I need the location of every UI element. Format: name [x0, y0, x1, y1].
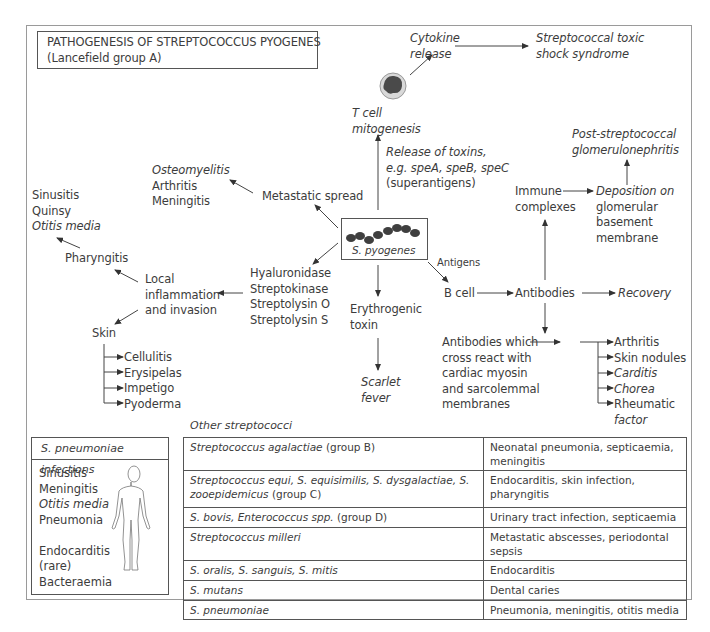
- table-row: S. mutans Dental caries: [184, 581, 687, 601]
- immune-complexes-label: Immunecomplexes: [515, 184, 576, 215]
- table-row: Streptococcus milleri Metastatic abscess…: [184, 528, 687, 561]
- antibodies-label: Antibodies: [515, 286, 575, 302]
- antigens-label: Antigens: [437, 255, 480, 271]
- table-row: S. bovis, Enterococcus spp. (group D) Ur…: [184, 508, 687, 528]
- enzymes-label: HyaluronidaseStreptokinaseStreptolysin O…: [250, 266, 331, 328]
- skin-infections-list: CellulitisErysipelasImpetigoPyoderma: [124, 350, 182, 412]
- table-row: S. pneumoniae Pneumonia, meningitis, oti…: [184, 601, 687, 620]
- t-cell-mitogenesis-label: T cellmitogenesis: [352, 106, 421, 137]
- b-cell-label: B cell: [444, 286, 475, 302]
- cytokine-release-label: Cytokinerelease: [410, 31, 460, 62]
- deposition-label: Deposition onglomerularbasementmembrane: [596, 184, 674, 246]
- table-row: Streptococcus equi, S. equisimilis, S. d…: [184, 471, 687, 508]
- other-streptococci-label: Other streptococci: [190, 419, 292, 432]
- upper-respiratory-label: SinusitisQuinsyOtitis media: [32, 188, 101, 235]
- title-box: PATHOGENESIS OF STREPTOCOCCUS PYOGENES (…: [37, 31, 318, 69]
- skin-label: Skin: [92, 326, 116, 342]
- erythrogenic-toxin-label: Erythrogenictoxin: [350, 302, 422, 333]
- post-strep-gn-label: Post-streptococcalglomerulonephritis: [572, 127, 679, 158]
- cross-react-antibodies-label: Antibodies whichcross react withcardiac …: [442, 335, 540, 413]
- local-inflammation-label: Localinflammationand invasion: [145, 272, 220, 319]
- s-pyogenes-box: S. pyogenes: [341, 218, 428, 260]
- table-row: Streptococcus agalactiae (group B) Neona…: [184, 438, 687, 471]
- title-main: PATHOGENESIS OF STREPTOCOCCUS PYOGENES: [47, 35, 308, 51]
- toxic-shock-syndrome-label: Streptococcal toxicshock syndrome: [536, 31, 644, 62]
- rheumatic-fever-list: ArthritisSkin nodulesCarditisChoreaRheum…: [614, 335, 686, 428]
- s-pneumoniae-infections-list: Sinusitis Meningitis Otitis media Pneumo…: [39, 466, 112, 590]
- pharyngitis-label: Pharyngitis: [65, 251, 128, 267]
- metastatic-spread-label: Metastatic spread: [262, 189, 363, 205]
- metastatic-targets-label: OsteomyelitisArthritisMeningitis: [152, 163, 230, 210]
- other-streptococci-table: Streptococcus agalactiae (group B) Neona…: [183, 437, 687, 620]
- s-pneumoniae-box: S. pneumoniae infections Sinusitis Menin…: [31, 437, 169, 595]
- title-sub: (Lancefield group A): [47, 51, 308, 67]
- toxin-release-label: Release of toxins,e.g. speA, speB, speC(…: [386, 145, 509, 192]
- table-row: S. oralis, S. sanguis, S. mitis Endocard…: [184, 561, 687, 581]
- s-pneumoniae-header: S. pneumoniae infections: [32, 438, 168, 460]
- recovery-label: Recovery: [618, 286, 671, 302]
- s-pyogenes-label: S. pyogenes: [352, 243, 415, 259]
- scarlet-fever-label: Scarletfever: [361, 375, 400, 406]
